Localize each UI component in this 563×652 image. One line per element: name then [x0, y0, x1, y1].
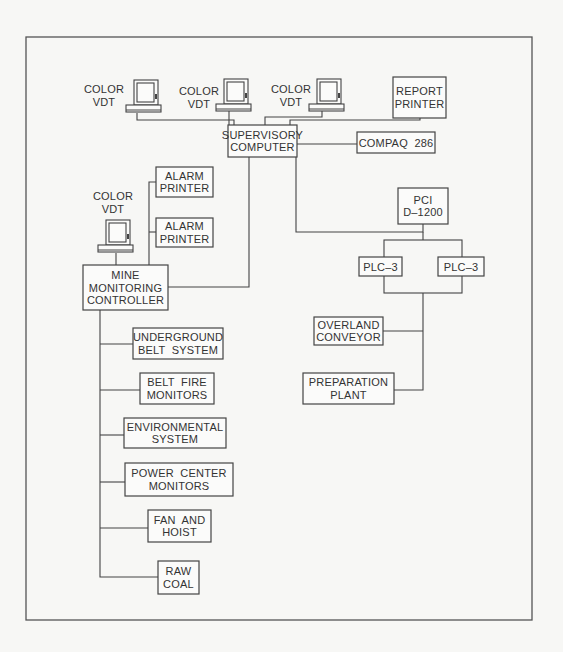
wire-plc-preparation-plant	[394, 293, 423, 390]
power-center-label-line: MONITORS	[149, 480, 210, 492]
fan-hoist-label-line: FAN AND	[154, 514, 206, 526]
vdt-1-label-line: COLOR	[84, 83, 124, 95]
environmental-label-line: SYSTEM	[152, 433, 198, 445]
supervisory-computer-label-line: SUPERVISORY	[222, 129, 304, 141]
raw-coal-label-line: RAW	[166, 565, 192, 577]
alarm-printer-2-label-line: PRINTER	[160, 233, 210, 245]
vdt-3-label-line: VDT	[280, 96, 303, 108]
node-plc-left: PLC–3	[359, 257, 402, 276]
diagram-canvas: REPORTPRINTERSUPERVISORYCOMPUTERCOMPAQ 2…	[0, 0, 563, 652]
mine-monitoring-controller-label-line: MINE	[111, 269, 139, 281]
node-vdt-2: COLORVDT	[179, 79, 251, 111]
belt-fire-label-line: MONITORS	[147, 389, 208, 401]
vdt-3-label-line: COLOR	[271, 83, 311, 95]
computer-terminal-icon	[309, 79, 344, 111]
alarm-printer-1-label-line: PRINTER	[160, 182, 210, 194]
overland-conveyor-label-line: OVERLAND	[317, 319, 379, 331]
overland-conveyor-label-line: CONVEYOR	[316, 331, 381, 343]
computer-terminal-icon	[126, 80, 161, 112]
mine-monitoring-controller-label-line: CONTROLLER	[87, 294, 164, 306]
node-overland-conveyor: OVERLANDCONVEYOR	[314, 317, 383, 345]
wire-alarm-printer-1	[149, 182, 156, 265]
node-belt-fire: BELT FIREMONITORS	[140, 373, 214, 404]
wire-report-printer-supervisory	[290, 118, 420, 125]
node-underground-belt: UNDERGROUNDBELT SYSTEM	[133, 328, 223, 359]
mine-monitoring-controller-label-line: MONITORING	[89, 282, 162, 294]
vdt-mine-label-line: VDT	[102, 203, 125, 215]
raw-coal-label-line: COAL	[163, 578, 194, 590]
wire-vdt1-supervisory	[137, 113, 234, 125]
alarm-printer-2-label-line: ALARM	[165, 220, 204, 232]
node-mine-monitoring-controller: MINEMONITORINGCONTROLLER	[83, 265, 168, 310]
alarm-printer-1-label-line: ALARM	[165, 170, 204, 182]
preparation-plant-label-line: PREPARATION	[309, 376, 388, 388]
node-report-printer: REPORTPRINTER	[393, 77, 446, 118]
vdt-2-label-line: COLOR	[179, 85, 219, 97]
node-supervisory-computer: SUPERVISORYCOMPUTER	[222, 125, 304, 157]
vdt-1-label-line: VDT	[93, 96, 116, 108]
preparation-plant-label-line: PLANT	[330, 389, 367, 401]
node-vdt-3: COLORVDT	[271, 79, 344, 111]
node-fan-hoist: FAN ANDHOIST	[148, 510, 211, 542]
power-center-label-line: POWER CENTER	[131, 467, 227, 479]
report-printer-label-line: PRINTER	[395, 98, 445, 110]
plc-right-label-line: PLC–3	[444, 261, 479, 273]
computer-terminal-icon	[216, 79, 251, 111]
node-power-center: POWER CENTERMONITORS	[125, 463, 233, 496]
vdt-mine-label-line: COLOR	[93, 190, 133, 202]
node-alarm-printer-2: ALARMPRINTER	[156, 218, 213, 247]
pci-label-line: D–1200	[403, 206, 443, 218]
plc-left-label-line: PLC–3	[363, 261, 398, 273]
vdt-2-label-line: VDT	[188, 98, 211, 110]
node-environmental: ENVIRONMENTALSYSTEM	[124, 418, 226, 448]
environmental-label-line: ENVIRONMENTAL	[127, 421, 224, 433]
node-compaq: COMPAQ 286	[357, 132, 435, 153]
node-vdt-mine: COLORVDT	[93, 190, 133, 252]
node-preparation-plant: PREPARATIONPLANT	[303, 373, 394, 404]
underground-belt-label-line: UNDERGROUND	[133, 331, 223, 343]
underground-belt-label-line: BELT SYSTEM	[138, 344, 218, 356]
node-pci: PCID–1200	[398, 188, 448, 224]
node-vdt-1: COLORVDT	[84, 80, 161, 112]
belt-fire-label-line: BELT FIRE	[147, 376, 207, 388]
pci-label-line: PCI	[414, 194, 433, 206]
node-raw-coal: RAWCOAL	[158, 561, 199, 594]
wire-vdt3-supervisory	[265, 111, 322, 125]
supervisory-computer-label-line: COMPUTER	[230, 141, 295, 153]
computer-terminal-icon	[98, 220, 133, 252]
fan-hoist-label-line: HOIST	[162, 526, 197, 538]
node-plc-right: PLC–3	[438, 257, 484, 276]
compaq-label-line: COMPAQ 286	[359, 137, 434, 149]
node-alarm-printer-1: ALARMPRINTER	[156, 167, 213, 197]
report-printer-label-line: REPORT	[396, 85, 443, 97]
